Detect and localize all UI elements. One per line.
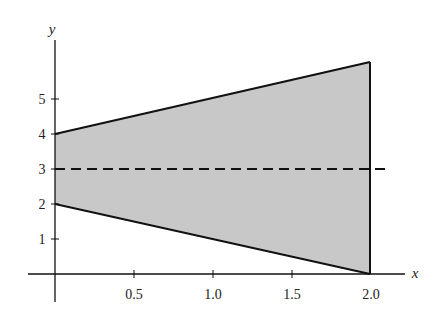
y-tick-label: 1 xyxy=(39,232,46,247)
shaded-region xyxy=(55,62,370,274)
x-tick-label: 1.5 xyxy=(283,287,301,302)
x-tick-label: 2.0 xyxy=(362,287,380,302)
y-tick-label: 5 xyxy=(39,92,46,107)
y-tick-label: 3 xyxy=(39,162,46,177)
x-tick-label: 0.5 xyxy=(125,287,143,302)
x-tick-label: 1.0 xyxy=(204,287,222,302)
x-axis-label: x xyxy=(411,265,419,281)
y-tick-label: 4 xyxy=(39,127,46,142)
chart-svg: 0.5 1.0 1.5 2.0 1 2 3 4 5 y x xyxy=(0,0,445,311)
y-axis-label: y xyxy=(47,21,56,37)
y-tick-label: 2 xyxy=(39,197,46,212)
figure: 0.5 1.0 1.5 2.0 1 2 3 4 5 y x xyxy=(0,0,445,311)
